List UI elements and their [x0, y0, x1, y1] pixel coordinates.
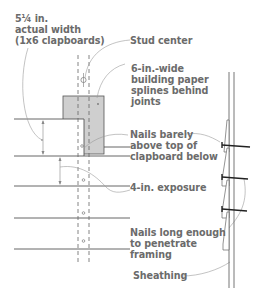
- exposure-label: 4-in. exposure: [130, 182, 206, 193]
- width-label-line3: (1x6 clapboards): [15, 35, 105, 46]
- leader-building-paper: [97, 64, 125, 98]
- clapboard-profile: [224, 120, 229, 152]
- leader-sheathing: [182, 262, 230, 276]
- sheathing-label: Sheathing: [133, 270, 187, 281]
- arrowhead: [59, 181, 62, 185]
- nails-above-label-line2: above top of: [130, 140, 197, 151]
- leader-dot: [41, 139, 43, 141]
- leader-exposure: [60, 166, 130, 192]
- upper-clapboard: [14, 119, 84, 156]
- paper-label-line2: building paper: [131, 74, 209, 85]
- nail-marker: [82, 240, 85, 243]
- paper-label-line3: splines behind: [131, 85, 208, 96]
- paper-label-line4: joints: [131, 96, 161, 107]
- nails-long-label-line3: framing: [130, 249, 172, 260]
- nails-long-label-line1: Nails long enough: [130, 227, 226, 238]
- paper-label-line1: 6-in.-wide: [131, 63, 184, 74]
- nails-above-label-line3: clapboard below: [130, 151, 218, 162]
- width-label-line2: actual width: [15, 24, 81, 35]
- nails-above-label-line1: Nails barely: [130, 129, 193, 140]
- width-label-line1: 5¼ in.: [15, 13, 48, 24]
- stud-center-label: Stud center: [130, 35, 192, 46]
- spline-nail-marker: [97, 103, 99, 105]
- nail-marker: [82, 212, 85, 215]
- nails-long-label-line2: to penetrate: [130, 238, 197, 249]
- nail-marker: [82, 179, 85, 182]
- arrowhead: [59, 157, 62, 161]
